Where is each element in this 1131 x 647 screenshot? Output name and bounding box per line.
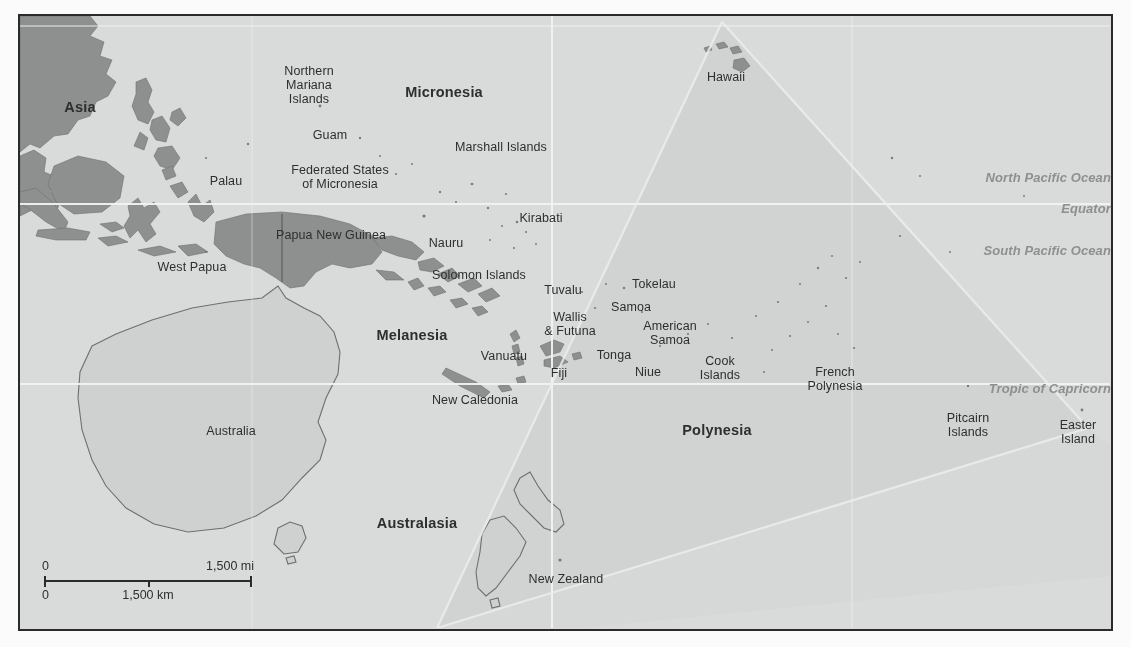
scale-tick-end [250, 576, 252, 587]
american-samoa-label: AmericanSamoa [643, 319, 697, 347]
fiji-label: Fiji [551, 366, 567, 380]
map-frame: NorthernMarianaIslandsGuamPalauFederated… [18, 14, 1113, 631]
samoa-label: Samoa [611, 300, 651, 314]
equator-label: Equator [1061, 202, 1111, 217]
scale-bar-graphic [42, 575, 254, 587]
Micronesia-label: Micronesia [405, 84, 483, 100]
australia-label: Australia [206, 424, 256, 438]
Melanesia-label: Melanesia [376, 327, 447, 343]
wallis-and-futuna-label: Wallis& Futuna [544, 310, 596, 338]
scale-miles-start: 0 [42, 559, 49, 573]
easter-island-label: EasterIsland [1060, 418, 1097, 446]
marshall-islands-label: Marshall Islands [455, 140, 547, 154]
north-pacific-ocean-label: North Pacific Ocean [986, 171, 1111, 186]
scale-tick-mid [148, 580, 150, 587]
palau-label: Palau [210, 174, 242, 188]
vanuatu-label: Vanuatu [481, 349, 527, 363]
french-polynesia-label: FrenchPolynesia [807, 365, 862, 393]
hawaii-label: Hawaii [707, 70, 745, 84]
papua-new-guinea-label: Papua New Guinea [276, 228, 386, 242]
Australasia-label: Australasia [377, 515, 457, 531]
new-caledonia-label: New Caledonia [432, 393, 518, 407]
cook-islands-label: CookIslands [700, 354, 740, 382]
scale-bar-km-row: 0 1,500 km [42, 588, 254, 603]
guam-label: Guam [313, 128, 347, 142]
oceania-map-figure: NorthernMarianaIslandsGuamPalauFederated… [0, 0, 1131, 647]
Polynesia-label: Polynesia [682, 422, 752, 438]
pitcairn-islands-label: PitcairnIslands [947, 411, 989, 439]
scale-km-end: 1,500 km [122, 588, 173, 602]
solomon-islands-label: Solomon Islands [432, 268, 526, 282]
tokelau-label: Tokelau [632, 277, 676, 291]
nauru-label: Nauru [429, 236, 464, 250]
kirabati-label: Kirabati [519, 211, 562, 225]
Asia-label: Asia [64, 99, 95, 115]
federated-states-of-micronesia-label: Federated Statesof Micronesia [291, 163, 389, 191]
new-zealand-label: New Zealand [529, 572, 604, 586]
scale-bar: 0 1,500 mi 0 1,500 km [42, 559, 254, 603]
scale-miles-end: 1,500 mi [206, 559, 254, 573]
tonga-label: Tonga [597, 348, 632, 362]
scale-km-start: 0 [42, 588, 49, 602]
south-pacific-ocean-label: South Pacific Ocean [983, 244, 1111, 259]
scale-bar-miles-row: 0 1,500 mi [42, 559, 254, 574]
scale-tick-start [44, 576, 46, 587]
niue-label: Niue [635, 365, 661, 379]
northern-mariana-islands-label: NorthernMarianaIslands [284, 64, 333, 106]
west-papua-label: West Papua [158, 260, 227, 274]
tropic-of-capricorn-label: Tropic of Capricorn [989, 382, 1111, 397]
tuvalu-label: Tuvalu [544, 283, 582, 297]
